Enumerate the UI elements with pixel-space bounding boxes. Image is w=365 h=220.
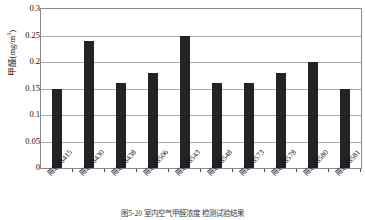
y-axis-tick-label: 0.25	[6, 31, 40, 39]
plot-area	[40, 8, 362, 169]
figure-caption: 图5-20 室内空气甲醛浓度 检测试验结果	[0, 209, 365, 218]
bar[interactable]	[84, 41, 94, 168]
bar[interactable]	[180, 36, 190, 169]
y-axis-tick-label: 0.1	[6, 110, 40, 118]
x-axis-label-group: 陈CT8415陈CT8430陈CT8438陈CT8506陈CT8543陈CT85…	[40, 172, 362, 208]
y-axis-tick-label: 0.2	[6, 57, 40, 65]
y-axis-tick-group: 00.050.10.150.20.250.3	[0, 8, 40, 169]
y-axis-tick-label: 0.05	[6, 137, 40, 145]
y-axis-tick-label: 0.3	[6, 4, 40, 12]
y-axis-tick-label: 0	[6, 163, 40, 171]
gridline	[41, 36, 361, 37]
y-axis-tick-label: 0.15	[6, 84, 40, 92]
bar[interactable]	[308, 62, 318, 168]
figure-bar-chart: 甲醛(mg/m3) 00.050.10.150.20.250.3 陈CT8415…	[0, 0, 365, 220]
